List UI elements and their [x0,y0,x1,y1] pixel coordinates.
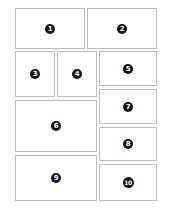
number-badge: 10 [123,177,134,188]
panel-2: 2 [87,8,157,49]
panel-5: 5 [99,51,157,86]
panel-9: 9 [15,155,97,201]
panel-1: 1 [15,8,85,49]
panel-4: 4 [57,51,97,97]
panel-6: 6 [15,100,97,152]
number-badge: 3 [30,69,40,79]
number-badge: 8 [123,139,133,149]
number-badge: 2 [117,24,127,34]
number-badge: 9 [51,173,61,183]
panel-8: 8 [99,127,157,161]
number-badge: 6 [51,121,61,131]
panel-7: 7 [99,89,157,124]
panel-3: 3 [15,51,55,97]
number-badge: 1 [45,24,55,34]
number-badge: 4 [72,69,82,79]
number-badge: 5 [123,64,133,74]
number-badge: 7 [123,102,133,112]
panel-10: 10 [99,164,157,201]
